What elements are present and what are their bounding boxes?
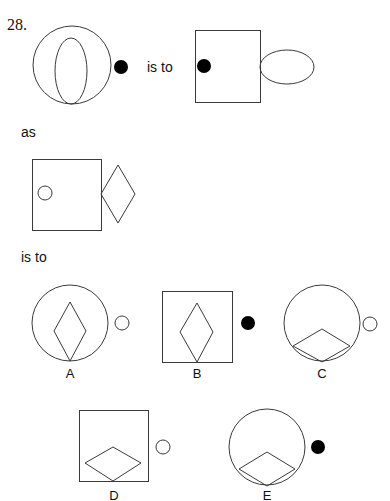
outer-circle xyxy=(229,409,305,485)
outside-diamond xyxy=(101,165,135,223)
premise-figure-2 xyxy=(196,31,315,103)
vertical-diamond xyxy=(54,302,86,361)
option-c[interactable] xyxy=(284,285,377,362)
small-white-circle xyxy=(115,316,129,330)
figures-canvas xyxy=(0,0,390,501)
option-c-label[interactable]: C xyxy=(317,366,326,381)
small-white-circle xyxy=(363,317,377,331)
option-e-label[interactable]: E xyxy=(263,488,272,501)
option-d-label[interactable]: D xyxy=(109,488,118,501)
black-dot xyxy=(241,316,255,330)
black-dot xyxy=(114,60,128,74)
outer-square xyxy=(80,411,149,482)
option-a-label[interactable]: A xyxy=(66,366,75,381)
outer-square xyxy=(163,292,233,363)
small-white-circle xyxy=(38,186,52,200)
premise-figure-3 xyxy=(33,160,136,231)
small-white-circle xyxy=(156,440,170,454)
outer-square xyxy=(33,160,102,231)
outer-circle xyxy=(284,285,360,361)
outside-ellipse xyxy=(260,50,314,84)
horizontal-diamond xyxy=(239,452,295,486)
black-dot xyxy=(311,440,325,454)
black-dot xyxy=(197,59,211,73)
option-b-label[interactable]: B xyxy=(193,366,202,381)
outer-circle xyxy=(32,285,108,361)
horizontal-diamond xyxy=(85,447,141,481)
inner-ellipse xyxy=(55,38,87,104)
option-e[interactable] xyxy=(229,409,325,486)
horizontal-diamond xyxy=(293,329,350,362)
premise-figure-1 xyxy=(33,26,128,104)
option-b[interactable] xyxy=(163,292,256,363)
vertical-diamond xyxy=(180,303,213,362)
option-d[interactable] xyxy=(80,411,171,482)
option-a[interactable] xyxy=(32,285,129,361)
